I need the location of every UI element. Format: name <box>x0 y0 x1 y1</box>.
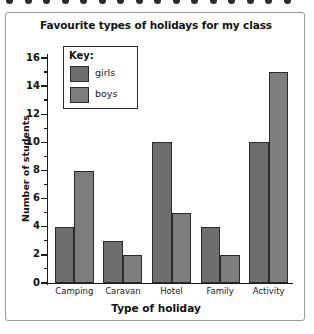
decoration-dot <box>228 0 235 4</box>
y-tick-major <box>41 198 48 199</box>
decoration-dot <box>284 0 291 4</box>
chart-frame: Favourite types of holidays for my class… <box>5 12 305 321</box>
y-tick-minor <box>44 184 48 185</box>
y-tick-major <box>41 282 48 283</box>
y-tick-minor <box>44 156 48 157</box>
y-tick-major <box>41 170 48 171</box>
bar-family-girls <box>201 227 221 283</box>
y-tick-label: 14 <box>14 80 40 91</box>
decoration-dot <box>43 0 50 4</box>
decoration-dot <box>265 0 272 4</box>
y-tick-major <box>41 254 48 255</box>
bar-camping-girls <box>55 227 75 283</box>
x-axis-title: Type of holiday <box>6 302 306 314</box>
y-tick-major <box>41 85 48 86</box>
x-tick-label-activity: Activity <box>240 286 297 296</box>
x-axis-line <box>47 283 293 284</box>
decoration-dot <box>173 0 180 4</box>
y-tick-minor <box>44 99 48 100</box>
y-tick-major <box>41 114 48 115</box>
bar-hotel-boys <box>172 213 192 283</box>
decoration-dot <box>6 0 13 4</box>
y-tick-major <box>41 226 48 227</box>
decoration-dot <box>136 0 143 4</box>
y-tick-major <box>41 142 48 143</box>
decoration-dot <box>247 0 254 4</box>
legend-label-girls: girls <box>95 67 115 78</box>
bar-activity-girls <box>249 142 269 283</box>
y-tick-major <box>41 57 48 58</box>
legend-swatch-girls <box>70 66 89 82</box>
bar-caravan-boys <box>123 255 143 283</box>
decoration-dot <box>154 0 161 4</box>
decoration-dot <box>80 0 87 4</box>
decoration-dot <box>117 0 124 4</box>
decoration-dot <box>210 0 217 4</box>
decoration-dot <box>25 0 32 4</box>
chart-legend: Key: girls boys <box>63 46 138 109</box>
page-decoration-strip <box>0 0 314 10</box>
y-axis-title: Number of students <box>20 94 31 244</box>
legend-swatch-boys <box>70 87 89 103</box>
y-tick-minor <box>44 212 48 213</box>
y-tick-minor <box>44 268 48 269</box>
bar-activity-boys <box>269 72 289 283</box>
bar-camping-boys <box>74 171 94 284</box>
decoration-dot <box>191 0 198 4</box>
y-tick-label: 16 <box>14 52 40 63</box>
y-tick-label: 2 <box>14 248 40 259</box>
bar-caravan-girls <box>103 241 123 283</box>
y-tick-label: 0 <box>14 277 40 288</box>
bar-hotel-girls <box>152 142 172 283</box>
legend-label-boys: boys <box>95 88 117 99</box>
y-tick-minor <box>44 71 48 72</box>
bar-family-boys <box>220 255 240 283</box>
legend-title: Key: <box>69 50 94 61</box>
decoration-dot <box>99 0 106 4</box>
y-tick-minor <box>44 240 48 241</box>
y-tick-minor <box>44 128 48 129</box>
decoration-dot <box>62 0 69 4</box>
plot-area: 0246810121416 CampingCaravanHotelFamilyA… <box>6 13 306 322</box>
